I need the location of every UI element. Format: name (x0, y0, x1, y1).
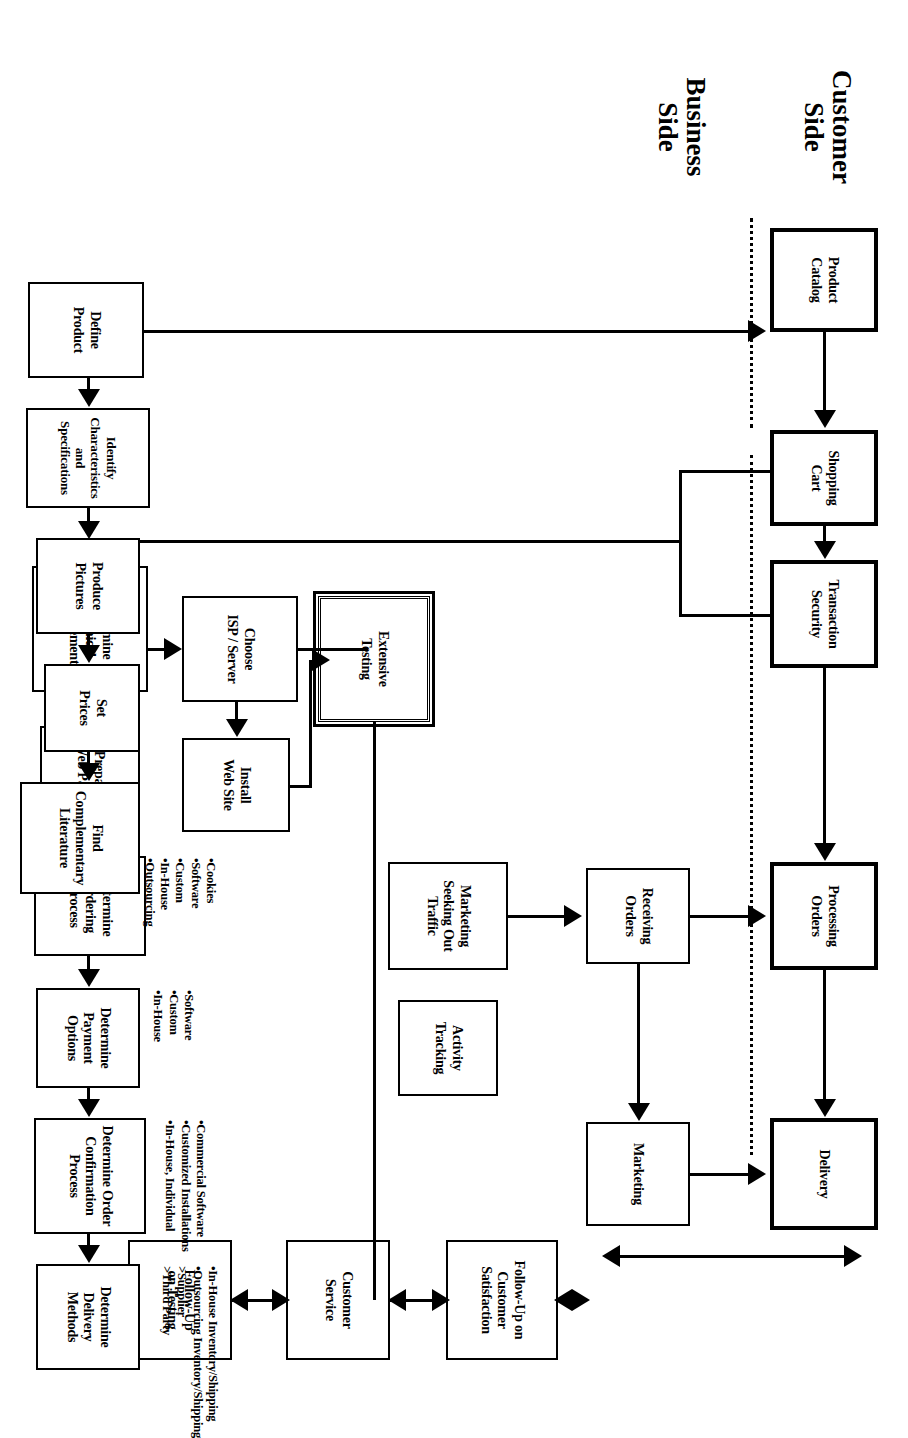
box-choose-isp-server[interactable]: ChooseISP / Server (182, 596, 298, 702)
box-marketing-seeking-traffic-label: MarketingSeeking OutTraffic (423, 880, 473, 951)
connector-isp-to-seeking (298, 648, 368, 651)
annotation-item: •Customized Installations (178, 1120, 193, 1252)
annotation-item: •In-House Inventory/Shipping (205, 1266, 220, 1438)
arrowhead-processing-to-delivery (814, 1099, 836, 1117)
arrowhead-cs-up (432, 1289, 450, 1311)
box-marketing-label: Marketing (630, 1143, 647, 1205)
box-product-catalog-label: ProductCatalog (807, 257, 840, 304)
box-determine-payment-options[interactable]: DeterminePayment Options (36, 988, 140, 1088)
box-follow-up-customer-satisfaction[interactable]: Follow-Up onCustomerSatisfaction (446, 1240, 558, 1360)
box-determine-delivery-methods[interactable]: DetermineDelivery Methods (36, 1264, 140, 1370)
arrowhead-payment-to-confirmation (78, 1099, 100, 1117)
connector-catalog-to-cart (823, 332, 826, 410)
annotation-item: •Outsourcing (142, 858, 157, 926)
annotation-item: •Software (188, 858, 203, 926)
arrowhead-fut-down (230, 1289, 248, 1311)
box-extensive-testing-label: ExtensiveTesting (357, 631, 390, 687)
connector-testing-elbow-h (373, 722, 376, 1300)
box-activity-tracking-label: ActivityTracking (431, 1022, 464, 1075)
arrowhead-marketing-to-followup-sat (554, 1289, 572, 1311)
box-install-web-site[interactable]: InstallWeb Site (182, 738, 290, 832)
box-define-product-label: DefineProduct (69, 307, 102, 354)
arrowhead-delivery-marketing-down (602, 1245, 620, 1267)
annotation-delivery-methods-options: •In-House Inventory/Shipping •Outsourcin… (159, 1266, 220, 1438)
arrowhead-cart-to-security (814, 541, 836, 559)
annotation-ordering-process-options: •Cookies •Software •Custom •In-House •Ou… (142, 858, 218, 926)
box-product-catalog[interactable]: ProductCatalog (770, 228, 878, 332)
box-processing-orders[interactable]: ProcessingOrders (770, 862, 878, 970)
box-activity-tracking[interactable]: ActivityTracking (398, 1000, 498, 1096)
box-install-web-site-label: InstallWeb Site (219, 759, 252, 811)
arrowhead-fut-up (272, 1289, 290, 1311)
arrowhead-catalog-to-define (748, 320, 766, 342)
annotation-item: >Supplier (174, 1266, 189, 1438)
box-find-complementary-literature[interactable]: FindComplementaryLiterature (20, 782, 140, 894)
box-delivery-label: Delivery (816, 1150, 833, 1199)
box-processing-orders-label: ProcessingOrders (807, 885, 840, 947)
arrowhead-receiving-to-marketing (628, 1103, 650, 1121)
box-transaction-security-label: TransactionSecurity (807, 579, 840, 648)
connector-marketing-to-delivery (690, 1173, 748, 1176)
box-determine-order-confirmation-label: Determine OrderConfirmationProcess (65, 1126, 115, 1227)
box-delivery[interactable]: Delivery (770, 1118, 878, 1230)
arrowhead-dtr-to-isp (164, 638, 182, 660)
lane-label-customer: Customer Side (799, 52, 856, 202)
arrowhead-install-to-testing (312, 649, 330, 671)
box-determine-order-confirmation[interactable]: Determine OrderConfirmationProcess (34, 1118, 146, 1234)
swimlane-divider-business (750, 455, 753, 1155)
box-shopping-cart-label: ShoppingCart (807, 450, 840, 505)
lane-label-business-line2: Side (653, 52, 681, 202)
box-define-product[interactable]: DefineProduct (28, 282, 144, 378)
arrowhead-security-to-processing (814, 843, 836, 861)
box-extensive-testing[interactable]: ExtensiveTesting (318, 596, 430, 722)
connector-dtr-to-isp (146, 648, 164, 651)
arrowhead-cs-down (388, 1289, 406, 1311)
bracket-cart-v (680, 470, 770, 473)
box-transaction-security[interactable]: TransactionSecurity (770, 560, 878, 668)
arrowhead-ordering-to-payment (78, 969, 100, 987)
connector-isp-to-install (235, 702, 238, 720)
box-receiving-orders-label: ReceivingOrders (621, 888, 654, 945)
arrowhead-delivery-marketing-up (844, 1245, 862, 1267)
box-marketing[interactable]: Marketing (586, 1122, 690, 1226)
connector-cart-to-security (823, 526, 826, 542)
lane-label-business: Business Side (653, 52, 710, 202)
box-choose-isp-server-label: ChooseISP / Server (223, 614, 256, 683)
bracket-security-v (680, 614, 770, 617)
box-follow-up-customer-satisfaction-label: Follow-Up onCustomerSatisfaction (477, 1261, 527, 1340)
box-identify-characteristics-label: IdentifyCharacteristicsandSpecifications (57, 417, 118, 498)
connector-delivery-marketing-double (618, 1255, 844, 1258)
arrowhead-receiving-to-processing (748, 905, 766, 927)
arrowhead-seeking-to-receiving (564, 905, 582, 927)
annotation-item: •In-House, Individual (162, 1120, 177, 1252)
lane-label-customer-line2: Side (799, 52, 827, 202)
connector-identify-to-produce (87, 508, 90, 522)
box-find-complementary-literature-label: FindComplementaryLiterature (55, 791, 105, 886)
annotation-item: •Custom (172, 858, 187, 926)
annotation-item: •Commercial Software (193, 1120, 208, 1252)
annotation-item: >Third Party (159, 1266, 174, 1438)
connector-receiving-to-processing (690, 915, 748, 918)
annotation-item: •Outsourcing Inventory/Shipping (190, 1266, 205, 1438)
arrowhead-confirmation-to-delivery-methods (78, 1245, 100, 1263)
arrowhead-define-to-identify (78, 389, 100, 407)
connector-seeking-to-receiving (508, 915, 564, 918)
connector-install-to-testing-h (309, 660, 312, 788)
arrowhead-isp-to-install (226, 719, 248, 737)
annotation-item: •Custom (166, 990, 181, 1042)
arrowhead-marketing-to-delivery (748, 1163, 766, 1185)
arrowhead-produce-to-prices (78, 645, 100, 663)
box-marketing-seeking-traffic[interactable]: MarketingSeeking OutTraffic (388, 862, 508, 970)
annotation-payment-options-list: •Software •Custom •In-House (150, 990, 196, 1042)
box-receiving-orders[interactable]: ReceivingOrders (586, 868, 690, 964)
box-produce-pictures[interactable]: ProducePictures (36, 538, 140, 634)
box-shopping-cart[interactable]: ShoppingCart (770, 430, 878, 526)
annotation-item: •Cookies (203, 858, 218, 926)
connector-processing-to-delivery (823, 970, 826, 1100)
box-set-prices[interactable]: SetPrices (44, 664, 140, 752)
box-determine-payment-options-label: DeterminePayment Options (63, 993, 113, 1083)
box-identify-characteristics[interactable]: IdentifyCharacteristicsandSpecifications (26, 408, 150, 508)
